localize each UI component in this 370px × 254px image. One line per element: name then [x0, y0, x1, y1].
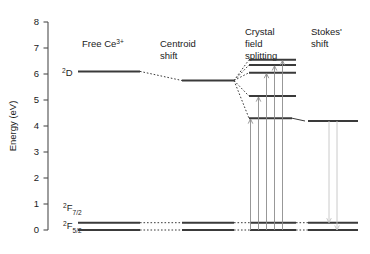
- y-tick-label-2: 2: [34, 172, 39, 183]
- absorption-arrow-1: [248, 119, 253, 230]
- y-tick-label-5: 5: [34, 94, 39, 105]
- free-ion-levels: [78, 71, 140, 230]
- term-symbols: 2D 2F7/2 2F5/2: [62, 67, 82, 234]
- term-label-2f72: 2F7/2: [63, 202, 82, 216]
- y-tick-label-3: 3: [34, 146, 39, 157]
- y-tick-4: 4: [34, 120, 48, 131]
- column-header-free-ion: Free Ce3+: [82, 38, 124, 50]
- absorption-arrow-4: [272, 66, 277, 230]
- column-header-crystal-field-line1: Crystal: [245, 26, 275, 37]
- y-tick-label-6: 6: [34, 68, 39, 79]
- y-tick-0: 0: [34, 224, 48, 235]
- connectors-free-to-centroid: [140, 71, 182, 230]
- energy-level-diagram: 8 7 6 5 4 3 2: [0, 0, 370, 254]
- y-tick-label-0: 0: [34, 224, 39, 235]
- y-tick-1: 1: [34, 198, 48, 209]
- connector-stokes-relaxation: [292, 118, 305, 121]
- emission-arrows: [327, 121, 340, 230]
- column-header-centroid-line2: shift: [160, 50, 178, 61]
- diagram-svg: 8 7 6 5 4 3 2: [0, 0, 370, 254]
- column-headers: Free Ce3+ Centroid shift Crystal field s…: [82, 26, 342, 61]
- connector-cf-4: [234, 81, 249, 97]
- absorption-arrows: [248, 61, 285, 230]
- connector-cf-2: [234, 65, 249, 81]
- connector-cf-1: [234, 60, 249, 81]
- y-tick-6: 6: [34, 68, 48, 79]
- term-label-2d: 2D: [62, 67, 73, 79]
- y-tick-8: 8: [34, 16, 48, 27]
- term-label-2f52: 2F5/2: [63, 220, 82, 234]
- crystal-field-levels: [249, 60, 296, 230]
- column-header-centroid-line1: Centroid: [160, 38, 196, 49]
- centroid-levels: [182, 81, 234, 231]
- y-tick-label-7: 7: [34, 42, 39, 53]
- column-header-stokes-line1: Stokes': [311, 26, 342, 37]
- stokes-levels: [308, 121, 358, 230]
- emission-arrow-to-4f72: [327, 121, 332, 223]
- connector-cf-5: [234, 81, 249, 119]
- absorption-arrow-2: [256, 97, 261, 230]
- connectors-centroid-to-crystal-field: [234, 60, 250, 230]
- column-header-crystal-field-line2: field: [245, 38, 262, 49]
- y-tick-3: 3: [34, 146, 48, 157]
- connector-5d-centroid: [140, 71, 182, 80]
- y-tick-label-4: 4: [34, 120, 39, 131]
- emission-arrow-to-4f52: [335, 121, 340, 230]
- y-tick-label-8: 8: [34, 16, 39, 27]
- y-tick-7: 7: [34, 42, 48, 53]
- y-tick-label-1: 1: [34, 198, 39, 209]
- y-tick-2: 2: [34, 172, 48, 183]
- y-tick-5: 5: [34, 94, 48, 105]
- column-header-stokes-line2: shift: [311, 38, 329, 49]
- y-axis-title: Energy (eV): [7, 101, 18, 152]
- y-axis: 8 7 6 5 4 3 2: [7, 16, 48, 235]
- absorption-arrow-5: [280, 61, 285, 230]
- connectors-crystal-to-stokes: [292, 118, 308, 230]
